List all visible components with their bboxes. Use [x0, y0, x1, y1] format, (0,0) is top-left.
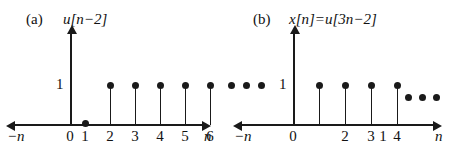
panel-b-x-tick-0: 0 [284, 128, 302, 145]
panel-a-dot-n5 [182, 82, 189, 89]
panel-b-y-axis [293, 33, 295, 125]
panel-b-dot-n1 [316, 82, 323, 89]
panel-b-y-tick-label-1: 1 [279, 76, 287, 93]
panel-b-ellipsis-dot-3 [433, 94, 440, 101]
panel-a-x-tick-2: 2 [101, 128, 119, 145]
panel-a-x-tick-5: 5 [176, 128, 194, 145]
panel-a-y-axis-arrow-icon [67, 25, 77, 34]
panel-b-dot-n2 [342, 82, 349, 89]
panel-b-ellipsis-dot-2 [419, 94, 426, 101]
panel-a-stem-n2 [110, 86, 112, 125]
panel-a-x-tick-4: 4 [151, 128, 169, 145]
panel-a-axis-name: n [204, 128, 212, 145]
panel-a: (a) u[n−2] 1 0 1 2 3 4 5 [0, 0, 229, 152]
panel-a-stem-n6 [210, 86, 212, 125]
panel-a-y-axis [70, 33, 72, 125]
panel-b-stem-n1 [319, 86, 321, 125]
panel-a-dot-n4 [157, 82, 164, 89]
panel-b-axis-name: n [435, 128, 443, 145]
panel-a-dot-n1-zero [82, 120, 89, 127]
panel-b-x-tick-4: 4 [388, 128, 406, 145]
panel-b-ellipsis-dot-1 [405, 94, 412, 101]
panel-b-y-axis-arrow-icon [290, 25, 300, 34]
panel-a-dot-n3 [132, 82, 139, 89]
panel-b-stem-n2 [345, 86, 347, 125]
panel-a-stem-n3 [135, 86, 137, 125]
panel-b-stem-n3 [371, 86, 373, 125]
panel-b-stem-n4 [397, 86, 399, 125]
panel-a-x-axis [14, 124, 203, 126]
panel-b-dot-n4 [394, 82, 401, 89]
panel-a-dot-n2 [107, 82, 114, 89]
panel-b-title: x[n]=u[3n−2] [289, 11, 377, 28]
panel-b-x-tick-2: 2 [336, 128, 354, 145]
panel-a-y-tick-label-1: 1 [56, 76, 64, 93]
figure-container: (a) u[n−2] 1 0 1 2 3 4 5 [0, 0, 458, 152]
panel-b: (b) x[n]=u[3n−2] 1 0 2 3 1 4 −n n [229, 0, 458, 152]
panel-a-stem-n5 [185, 86, 187, 125]
panel-b-neg-axis-name: −n [234, 128, 252, 145]
panel-a-x-tick-3: 3 [126, 128, 144, 145]
panel-b-tag: (b) [253, 11, 271, 28]
panel-a-neg-axis-name: −n [7, 128, 25, 145]
panel-a-tag: (a) [26, 11, 43, 28]
panel-a-x-tick-1: 1 [76, 128, 94, 145]
panel-a-dot-n6 [207, 82, 214, 89]
panel-b-x-axis [241, 124, 434, 126]
panel-a-stem-n4 [160, 86, 162, 125]
panel-b-dot-n3 [368, 82, 375, 89]
